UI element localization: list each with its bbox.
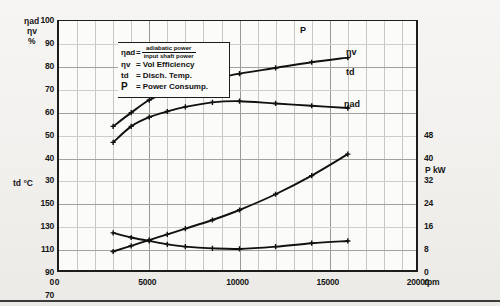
chart-screenshot: ηad ηv % td °C P kW ηv ηad P td ηad = ad… [0,0,500,306]
data-point-marker [165,109,170,114]
legend-fraction: adiabatic power input shaft power [142,45,196,59]
curve-power [113,154,348,251]
curve-eta-ad [113,101,348,142]
page-rule [0,300,500,302]
data-point-marker [237,99,242,104]
legend-box: ηad = adiabatic power input shaft power … [118,42,230,98]
tick-power: 48 [424,130,433,140]
curve-label-eta-ad: ηad [344,99,360,109]
data-point-marker [210,100,215,105]
tick-temperature: 90 [0,267,54,277]
tick-efficiency: 60 [0,107,54,117]
tick-power: 16 [424,221,433,231]
tick-power: 24 [424,198,433,208]
tick-power: 40 [424,153,433,163]
legend-row-eta-ad: ηad = adiabatic power input shaft power [121,45,226,59]
data-point-marker [345,238,350,243]
data-point-marker [147,115,152,120]
tick-efficiency: 40 [0,153,54,163]
data-point-marker [129,235,134,240]
tick-temperature: 130 [0,221,54,231]
tick-temperature: 70 [0,290,54,300]
data-point-marker [309,60,314,65]
data-point-marker [237,207,242,212]
data-point-marker [237,71,242,76]
data-point-marker [273,65,278,70]
curve-label-td: td [346,67,355,77]
tick-power: 32 [424,175,433,185]
tick-temperature: 110 [0,244,54,254]
legend-row-eta-v: ηv = Vol Efficiency [121,59,226,70]
tick-power: 8 [424,244,429,254]
data-point-marker [309,103,314,108]
data-point-marker [183,104,188,109]
axis-title-eta-v: ηv [27,26,37,36]
legend-row-p: P = Power Consump. [121,81,226,92]
data-point-marker [273,244,278,249]
data-point-marker [129,243,134,248]
tick-efficiency: 80 [0,61,54,71]
data-point-marker [237,246,242,251]
data-point-marker [309,241,314,246]
data-point-marker [273,101,278,106]
data-point-marker [183,226,188,231]
data-point-marker [165,232,170,237]
x-axis-unit-label: rpm [424,277,439,287]
tick-efficiency: 30 [0,175,54,185]
curve-label-eta-v: ηv [346,47,357,57]
tick-x-zero: 0 [0,277,54,287]
legend-row-td: td = Disch. Temp. [121,70,226,81]
data-point-marker [210,246,215,251]
tick-power: 0 [424,267,429,277]
data-point-marker [210,217,215,222]
tick-x-rpm: 10000 [220,277,256,287]
curve-label-p: P [300,25,306,35]
data-point-marker [165,242,170,247]
data-point-marker [111,230,116,235]
tick-temperature: 150 [0,198,54,208]
data-point-marker [111,249,116,254]
tick-efficiency: 100 [0,15,54,25]
tick-x-rpm: 5000 [129,277,165,287]
curve-layer [59,21,420,273]
plot-area: ηv ηad P td ηad = adiabatic power input … [57,20,418,272]
axis-title-p-kw: P kW [425,165,446,175]
tick-efficiency: 50 [0,130,54,140]
tick-efficiency: 90 [0,38,54,48]
tick-efficiency: 70 [0,84,54,94]
tick-x-rpm: 15000 [310,277,346,287]
data-point-marker [183,244,188,249]
